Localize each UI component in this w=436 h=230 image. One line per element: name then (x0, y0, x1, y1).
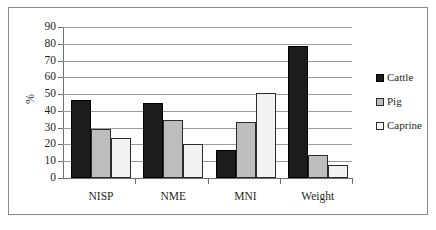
legend-label: Caprine (387, 120, 422, 131)
legend-item-caprine[interactable]: Caprine (376, 120, 432, 131)
plot-area (63, 27, 352, 178)
gridline (63, 77, 352, 78)
legend-swatch-caprine-icon (376, 122, 384, 130)
y-axis-title: % (24, 94, 36, 104)
legend-item-cattle[interactable]: Cattle (376, 72, 432, 83)
legend-label: Pig (387, 96, 402, 107)
x-axis-line (63, 178, 353, 179)
gridline (63, 61, 352, 62)
y-tick-label: 80 (16, 38, 56, 50)
y-tick-label: 60 (16, 71, 56, 83)
x-tick-mark (208, 179, 209, 184)
bar-nisp-caprine (111, 138, 131, 178)
x-tick-mark (135, 179, 136, 184)
legend-swatch-cattle-icon (376, 74, 384, 82)
legend-item-pig[interactable]: Pig (376, 96, 432, 107)
bar-nme-caprine (183, 144, 203, 178)
x-axis-label-nisp: NISP (61, 190, 141, 202)
gridline (63, 94, 352, 95)
bar-nme-pig (163, 120, 183, 178)
y-tick-label: 0 (16, 172, 56, 184)
y-tick-label: 90 (16, 21, 56, 33)
bar-mni-cattle (216, 150, 236, 178)
y-tick-label: 10 (16, 155, 56, 167)
bar-weight-pig (308, 155, 328, 178)
bar-nisp-pig (91, 129, 111, 178)
y-tick-label: 40 (16, 105, 56, 117)
gridline (63, 111, 352, 112)
gridline (63, 44, 352, 45)
x-tick-mark (280, 179, 281, 184)
bar-mni-caprine (256, 93, 276, 178)
y-axis-tick-labels: 0102030405060708090 (8, 0, 56, 230)
y-tick-label: 30 (16, 122, 56, 134)
bar-nisp-cattle (71, 100, 91, 178)
legend-swatch-pig-icon (376, 98, 384, 106)
bar-nme-cattle (143, 103, 163, 179)
x-axis-label-weight: Weight (278, 190, 358, 202)
x-tick-mark (352, 179, 353, 184)
legend-label: Cattle (387, 72, 413, 83)
bar-mni-pig (236, 122, 256, 178)
chart-legend: CattlePigCaprine (376, 72, 432, 144)
bar-weight-caprine (328, 165, 348, 178)
gridline (63, 27, 352, 28)
y-tick-label: 20 (16, 138, 56, 150)
chart-figure: 0102030405060708090 % NISPNMEMNIWeight C… (0, 0, 436, 230)
bar-weight-cattle (288, 46, 308, 178)
y-tick-label: 70 (16, 55, 56, 67)
x-axis-label-mni: MNI (206, 190, 286, 202)
x-axis-label-nme: NME (133, 190, 213, 202)
